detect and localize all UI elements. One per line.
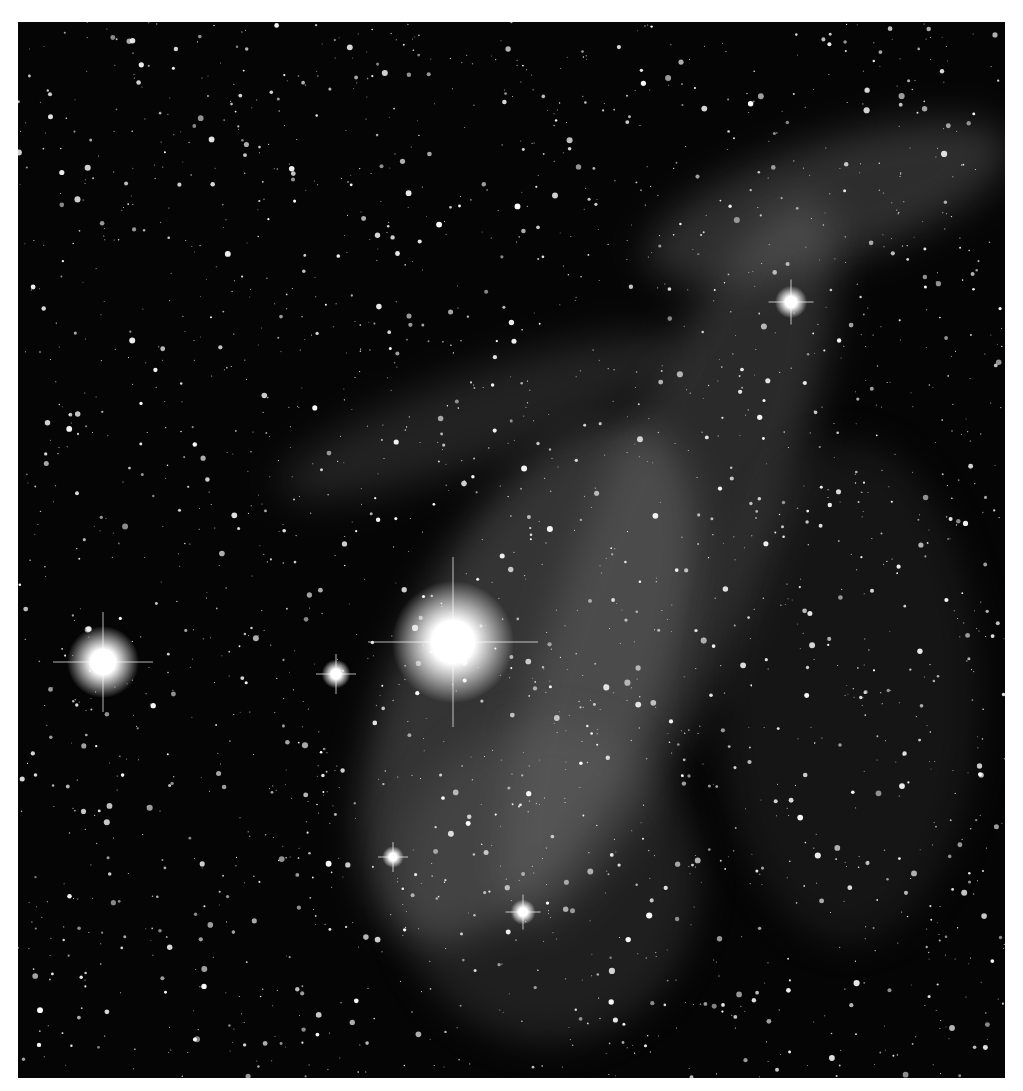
nebula-photo	[18, 22, 1005, 1078]
starfield	[18, 22, 1005, 1078]
